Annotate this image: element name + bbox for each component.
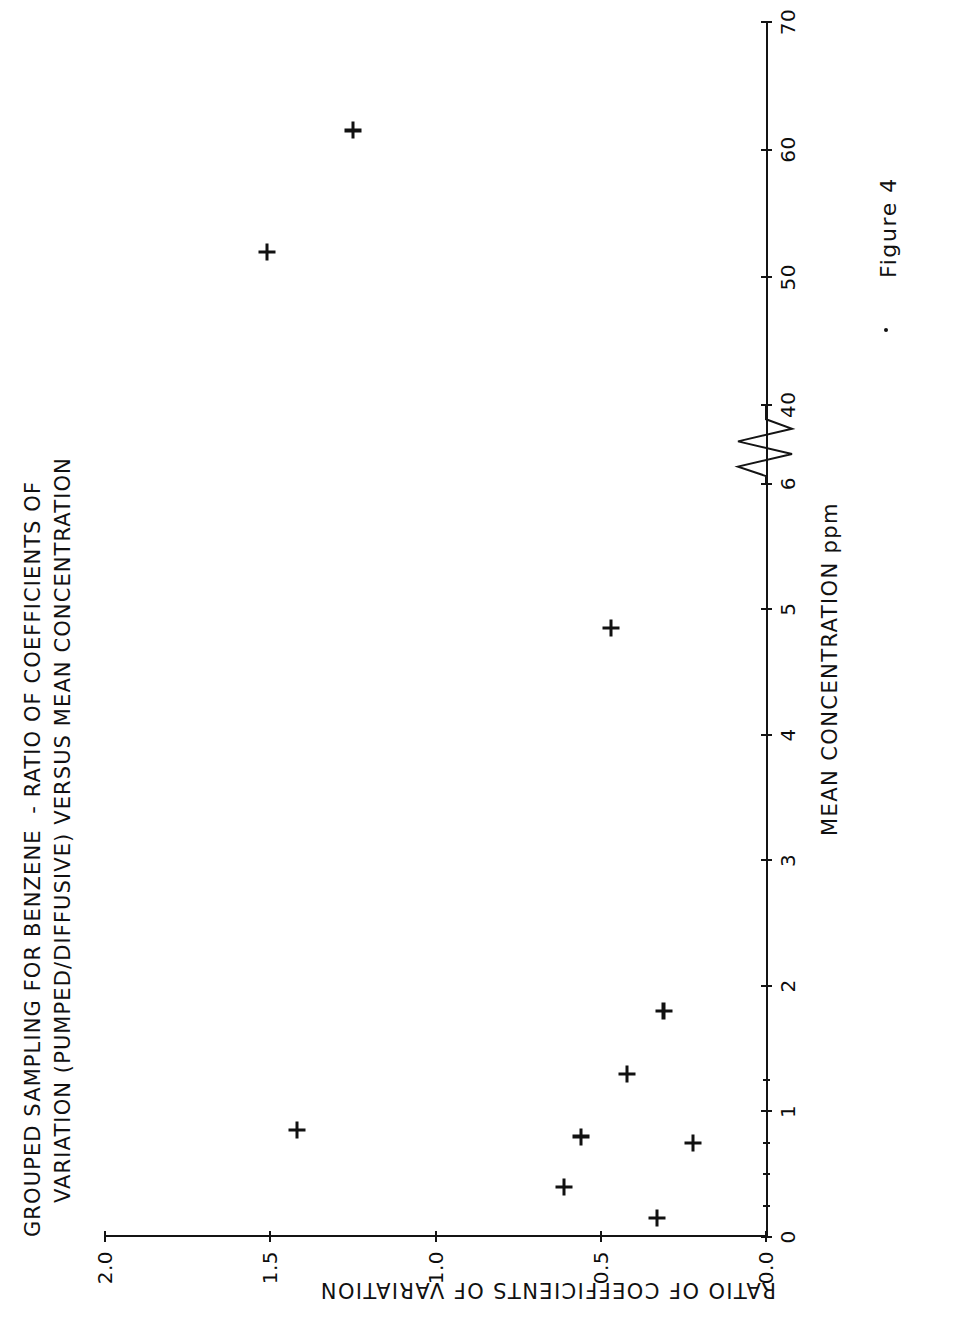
x-tick (761, 1110, 772, 1112)
x-tick (761, 608, 772, 610)
data-point-marker (655, 1003, 672, 1020)
data-point-marker (685, 1134, 702, 1151)
scatter-plot: 0123456405060700.00.51.01.52.0GROUPED SA… (0, 0, 956, 1338)
x-minor-tick (763, 1173, 770, 1175)
x-tick (761, 21, 772, 23)
x-tick-label: 3 (776, 854, 800, 867)
data-point-marker (572, 1128, 589, 1145)
x-tick-label: 50 (776, 264, 800, 290)
x-tick (761, 985, 772, 987)
x-tick-label: 2 (776, 979, 800, 992)
y-tick (765, 1231, 767, 1242)
stray-ink-dot (884, 328, 888, 332)
x-axis-break-icon (732, 395, 802, 494)
y-tick-label: 1.5 (258, 1251, 282, 1284)
x-tick (761, 734, 772, 736)
x-axis-line (766, 22, 768, 1237)
data-point-marker (288, 1122, 305, 1139)
data-point-marker (602, 620, 619, 637)
data-point-marker (344, 122, 361, 139)
y-tick (269, 1231, 271, 1242)
rotated-figure-canvas: 0123456405060700.00.51.01.52.0GROUPED SA… (0, 0, 956, 1338)
figure-caption: Figure 4 (876, 177, 901, 278)
y-axis-label: RATIO OF COEFFICIENTS OF VARIATION (319, 1278, 776, 1302)
x-tick-label: 0 (776, 1230, 800, 1243)
data-point-marker (556, 1178, 573, 1195)
x-tick (761, 276, 772, 278)
x-tick (761, 859, 772, 861)
x-tick-label: 60 (776, 136, 800, 162)
y-tick (600, 1231, 602, 1242)
data-point-marker (648, 1210, 665, 1227)
x-axis-label: MEAN CONCENTRATION ppm (818, 0, 842, 1338)
x-minor-tick (763, 1205, 770, 1207)
axis-break-mask (0, 1263, 6, 1338)
data-point-marker (619, 1065, 636, 1082)
x-minor-tick (763, 1142, 770, 1144)
x-tick-label: 5 (776, 603, 800, 616)
x-tick-label: 1 (776, 1105, 800, 1118)
y-tick (435, 1231, 437, 1242)
y-tick-label: 2.0 (93, 1251, 117, 1284)
x-tick (761, 149, 772, 151)
x-tick-label: 4 (776, 728, 800, 741)
data-point-marker (258, 243, 275, 260)
y-tick (104, 1231, 106, 1242)
x-minor-tick (763, 1079, 770, 1081)
chart-title-line-1: GROUPED SAMPLING FOR BENZENE - RATIO OF … (18, 481, 48, 1237)
x-tick-label: 70 (776, 9, 800, 35)
chart-title-line-2: VARIATION (PUMPED/DIFFUSIVE) VERSUS MEAN… (48, 457, 78, 1203)
